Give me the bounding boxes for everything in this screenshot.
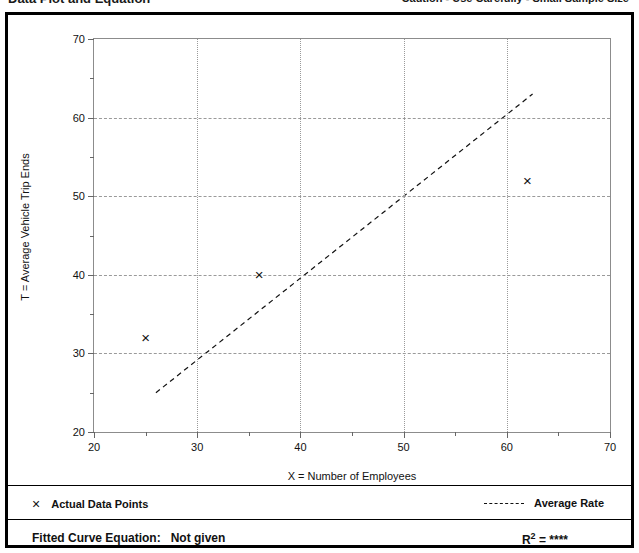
legend-average-rate-label: Average Rate: [534, 497, 604, 509]
r-squared-label: R: [522, 533, 531, 547]
x-axis-tick: [507, 432, 508, 438]
data-plot-page: Data Plot and Equation Caution - Use Car…: [0, 0, 639, 553]
y-axis-tick-minor: [90, 78, 94, 79]
y-axis-tick: [88, 196, 94, 197]
gridline-vertical: [404, 39, 405, 432]
x-axis-tick-label: 40: [294, 441, 306, 453]
page-title: Data Plot and Equation: [8, 0, 150, 6]
y-axis-tick-label: 30: [73, 347, 85, 359]
y-axis-tick-label: 40: [73, 269, 85, 281]
y-axis-tick-minor: [90, 393, 94, 394]
y-axis-tick-label: 70: [73, 33, 85, 45]
gridline-vertical: [197, 39, 198, 432]
legend-actual-data-points-label: Actual Data Points: [51, 498, 148, 510]
y-axis-tick: [88, 118, 94, 119]
data-point-marker: [522, 175, 533, 186]
y-axis-tick: [88, 39, 94, 40]
gridline-vertical: [507, 39, 508, 432]
x-marker-icon: ×: [32, 497, 40, 511]
fitted-curve-equation: Fitted Curve Equation: Not given: [32, 531, 225, 545]
fitted-curve-equation-value: Not given: [171, 531, 226, 545]
x-axis-tick-minor: [249, 432, 250, 436]
gridline-horizontal: [94, 353, 610, 354]
y-axis-tick-minor: [90, 157, 94, 158]
x-axis-tick: [404, 432, 405, 438]
x-axis-tick-label: 50: [397, 441, 409, 453]
plot-area: 203040506070203040506070: [93, 38, 611, 433]
gridline-horizontal: [94, 118, 610, 119]
r-squared-exponent: 2: [531, 531, 536, 541]
y-axis-tick-label: 60: [73, 112, 85, 124]
y-axis-tick-minor: [90, 314, 94, 315]
legend-average-rate: Average Rate: [484, 497, 604, 509]
r-squared-value: = ****: [539, 533, 568, 547]
y-axis-tick-label: 20: [73, 426, 85, 438]
r-squared: R2 = ****: [522, 531, 568, 547]
y-axis-tick: [88, 353, 94, 354]
gridline-horizontal: [94, 196, 610, 197]
y-axis-tick-label: 50: [73, 190, 85, 202]
gridline-horizontal: [94, 275, 610, 276]
data-point-marker: [254, 269, 265, 280]
x-axis-tick-minor: [558, 432, 559, 436]
x-axis-tick-label: 60: [501, 441, 513, 453]
legend-divider: [8, 485, 631, 486]
x-axis-tick: [300, 432, 301, 438]
x-axis-tick-label: 30: [191, 441, 203, 453]
gridline-vertical: [300, 39, 301, 432]
caution-note: Caution - Use Carefully - Small Sample S…: [402, 0, 629, 4]
x-axis-tick-label: 70: [604, 441, 616, 453]
x-axis-tick-minor: [352, 432, 353, 436]
x-axis-tick: [94, 432, 95, 438]
x-axis-tick-label: 20: [88, 441, 100, 453]
dashed-line-icon: [484, 503, 524, 504]
y-axis-title: T = Average Vehicle Trip Ends: [19, 62, 31, 392]
equation-divider: [8, 519, 631, 520]
data-point-marker: [140, 332, 151, 343]
x-axis-title: X = Number of Employees: [93, 470, 611, 482]
fitted-curve-equation-label: Fitted Curve Equation:: [32, 531, 161, 545]
average-rate-trendline: [94, 39, 612, 434]
x-axis-tick-minor: [455, 432, 456, 436]
chart-frame: 203040506070203040506070 X = Number of E…: [5, 12, 634, 548]
y-axis-tick: [88, 275, 94, 276]
x-axis-tick: [197, 432, 198, 438]
x-axis-tick-minor: [146, 432, 147, 436]
x-axis-tick: [610, 432, 611, 438]
y-axis-tick-minor: [90, 236, 94, 237]
legend-actual-data-points: × Actual Data Points: [32, 497, 148, 511]
